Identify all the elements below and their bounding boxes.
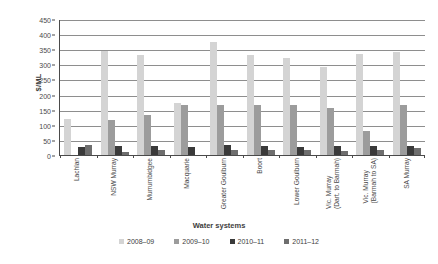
legend-item[interactable]: 2010–11	[230, 238, 265, 245]
bar[interactable]	[414, 148, 421, 155]
bar-group	[60, 20, 97, 155]
bar[interactable]	[283, 58, 290, 155]
bar[interactable]	[407, 146, 414, 155]
x-axis-label-cell: Vic. Murray(Barmah to SA)	[352, 158, 389, 220]
bar[interactable]	[297, 147, 304, 155]
y-axis-tick	[52, 110, 55, 111]
x-axis-category-label: Vic. Murray(Barmah to SA)	[362, 158, 377, 203]
bar[interactable]	[247, 55, 254, 155]
bar[interactable]	[122, 152, 129, 155]
legend-label: 2009–10	[182, 238, 209, 245]
bar[interactable]	[188, 147, 195, 155]
x-axis-label-cell: Macquarie	[169, 158, 206, 220]
legend-label: 2011–12	[292, 238, 319, 245]
x-axis-category-label-line1: Lachlan	[74, 158, 81, 181]
y-axis-tick-label: 150	[39, 107, 51, 114]
bar[interactable]	[217, 105, 224, 155]
x-axis-label-cell: Vic. Murray(Dart. to Barmah)	[315, 158, 352, 220]
bar[interactable]	[115, 146, 122, 155]
bar[interactable]	[151, 146, 158, 155]
x-axis-category-label-line1: Vic. Murray	[362, 170, 369, 203]
bar[interactable]	[377, 150, 384, 155]
bar[interactable]	[261, 146, 268, 155]
bar-group	[243, 20, 280, 155]
bar[interactable]	[363, 131, 370, 155]
x-axis-label-cell: NSW Murray	[96, 158, 133, 220]
x-axis-category-label: Boort	[256, 158, 264, 174]
y-axis-tick	[52, 65, 55, 66]
bar-group	[352, 20, 389, 155]
x-axis-category-label-line1: Greater Goulburn	[220, 158, 227, 209]
bar[interactable]	[224, 145, 231, 155]
y-axis-tick-label: 350	[39, 47, 51, 54]
y-axis-tick	[52, 140, 55, 141]
x-axis-category-label: Lower Goulburn	[293, 158, 301, 205]
x-axis-category-label-line1: SA Murray	[403, 158, 410, 189]
bar[interactable]	[341, 151, 348, 155]
bar[interactable]	[158, 150, 165, 155]
x-axis-category-label-line1: Boort	[256, 158, 263, 174]
bar[interactable]	[268, 150, 275, 155]
bar[interactable]	[181, 105, 188, 155]
bar[interactable]	[231, 150, 238, 155]
bar[interactable]	[304, 150, 311, 155]
y-axis-tick-label: 100	[39, 122, 51, 129]
bar[interactable]	[254, 105, 261, 155]
bar-group	[97, 20, 134, 155]
y-axis-tick-label: 400	[39, 32, 51, 39]
bar[interactable]	[137, 55, 144, 155]
bar[interactable]	[174, 103, 181, 155]
bar-group	[133, 20, 170, 155]
bar[interactable]	[144, 115, 151, 155]
x-axis-category-label-line2: (Barmah to SA)	[370, 158, 378, 203]
legend-swatch	[230, 239, 235, 244]
bar[interactable]	[393, 52, 400, 155]
legend-swatch	[174, 239, 179, 244]
x-axis-category-label-line1: Murrumbidgee	[147, 158, 154, 201]
x-axis-category-label-line1: Macquarie	[183, 158, 190, 189]
bar-group	[279, 20, 316, 155]
bar[interactable]	[370, 146, 377, 155]
bar-group	[389, 20, 426, 155]
bar[interactable]	[85, 145, 92, 155]
bar[interactable]	[290, 105, 297, 155]
x-axis-category-label: NSW Murray	[110, 158, 118, 196]
x-axis-category-label-line1: Vic. Murray	[326, 176, 333, 209]
legend-item[interactable]: 2009–10	[174, 238, 209, 245]
x-axis-category-label: Murrumbidgee	[147, 158, 155, 201]
x-axis-category-label: Lachlan	[74, 158, 82, 181]
legend-item[interactable]: 2008–09	[119, 238, 154, 245]
bar[interactable]	[320, 67, 327, 155]
bar[interactable]	[327, 108, 334, 155]
bar[interactable]	[210, 42, 217, 155]
bar[interactable]	[334, 146, 341, 155]
bar[interactable]	[101, 51, 108, 155]
y-axis-tick	[52, 20, 55, 21]
legend-label: 2010–11	[238, 238, 265, 245]
x-axis-label-cell: Murrumbidgee	[132, 158, 169, 220]
x-axis-category-label: SA Murray	[403, 158, 411, 189]
bar-group	[170, 20, 207, 155]
x-axis-category-label-line1: NSW Murray	[110, 158, 117, 196]
legend-item[interactable]: 2011–12	[284, 238, 319, 245]
bar-groups	[60, 20, 425, 155]
bar[interactable]	[108, 120, 115, 155]
bar[interactable]	[400, 105, 407, 155]
x-axis-label-cell: Lower Goulburn	[279, 158, 316, 220]
bar[interactable]	[64, 119, 71, 155]
legend-swatch	[119, 239, 124, 244]
bar[interactable]	[356, 54, 363, 155]
y-axis-tick	[52, 80, 55, 81]
x-axis-category-label: Vic. Murray(Dart. to Barmah)	[326, 158, 341, 209]
y-axis-tick	[52, 50, 55, 51]
x-axis-category-label-line1: Lower Goulburn	[293, 158, 300, 205]
bar-chart: $/ML 050100150200250300350400450 Lachlan…	[0, 0, 438, 264]
y-axis-tick-label: 250	[39, 77, 51, 84]
x-axis-label-cell: Lachlan	[59, 158, 96, 220]
y-axis-tick-label: 300	[39, 62, 51, 69]
y-axis-tick-label: 200	[39, 92, 51, 99]
x-axis-label-cell: Greater Goulburn	[205, 158, 242, 220]
bar[interactable]	[78, 147, 85, 155]
x-axis-category-label: Greater Goulburn	[220, 158, 228, 209]
x-axis-category-label: Macquarie	[183, 158, 191, 189]
